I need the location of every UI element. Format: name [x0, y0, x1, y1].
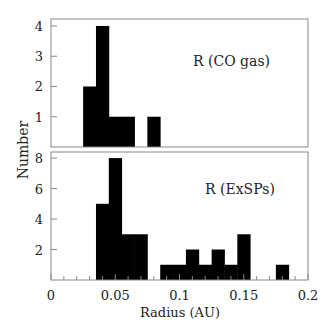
- bottom-y-ticks: 2468: [35, 151, 57, 257]
- y-tick-label: 2: [35, 243, 43, 258]
- histogram-bar: [83, 86, 96, 147]
- histogram-bar: [186, 250, 199, 280]
- y-tick-label: 1: [35, 110, 43, 125]
- y-tick-label: 6: [35, 182, 43, 197]
- y-tick-label: 2: [35, 79, 43, 94]
- histogram-bar: [109, 158, 122, 280]
- top-panel-co-gas: 1234 R (CO gas): [35, 19, 308, 147]
- histogram-bar: [212, 250, 225, 280]
- y-axis-label: Number: [15, 120, 31, 179]
- top-y-ticks: 1234: [35, 19, 57, 125]
- histogram-bar: [237, 234, 250, 280]
- y-tick-label: 4: [35, 212, 43, 227]
- x-tick-label: 0.2: [298, 288, 319, 303]
- y-tick-label: 3: [35, 49, 43, 64]
- histogram-bar: [109, 117, 122, 147]
- bottom-panel-exsps: 2468 00.050.10.150.2 R (ExSPs): [35, 151, 319, 303]
- top-panel-annotation: R (CO gas): [193, 53, 270, 69]
- x-tick-label: 0.15: [229, 288, 258, 303]
- x-tick-label: 0.1: [169, 288, 190, 303]
- histogram-bar: [147, 117, 160, 147]
- x-axis-label: Radius (AU): [140, 305, 220, 320]
- top-histogram-bars: [83, 26, 161, 147]
- histogram-bar: [96, 204, 109, 280]
- bottom-histogram-bars: [96, 158, 289, 280]
- y-tick-label: 8: [35, 151, 43, 166]
- histogram-bar: [122, 117, 135, 147]
- histogram-bar: [96, 26, 109, 147]
- histogram-bar: [135, 234, 148, 280]
- bottom-panel-frame: [51, 152, 308, 280]
- x-tick-label: 0: [47, 288, 55, 303]
- histogram-bar: [122, 234, 135, 280]
- histogram-figure: 1234 R (CO gas) 2468 00.050.10.150.2 R (…: [0, 0, 329, 332]
- y-tick-label: 4: [35, 19, 43, 34]
- bottom-panel-annotation: R (ExSPs): [205, 181, 275, 197]
- x-tick-label: 0.05: [101, 288, 130, 303]
